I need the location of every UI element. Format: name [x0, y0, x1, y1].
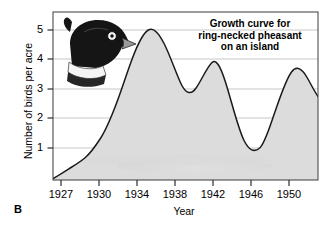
chart-title-line-2: ring-necked pheasant — [186, 30, 314, 42]
xtick-label-1927: 1927 — [41, 188, 81, 200]
xtick-label-1946: 1946 — [231, 188, 271, 200]
pheasant-pupil — [110, 34, 113, 37]
pheasant-head-illustration — [56, 14, 140, 90]
chart-title-line-3: on an island — [186, 41, 314, 53]
chart-title: Growth curve for ring-necked pheasant on… — [186, 18, 314, 53]
xtick-label-1934: 1934 — [117, 188, 157, 200]
pheasant-beak — [122, 38, 136, 49]
panel-label: B — [14, 203, 22, 215]
x-axis-ticks — [61, 180, 289, 186]
xtick-label-1950: 1950 — [269, 188, 309, 200]
pheasant-crest — [64, 18, 72, 32]
xtick-label-1942: 1942 — [193, 188, 233, 200]
y-axis-label: Number of birds per acre — [22, 26, 34, 176]
background-watermark-2 — [80, 155, 270, 165]
pheasant-head-shape — [70, 20, 130, 68]
xtick-label-1930: 1930 — [79, 188, 119, 200]
xtick-label-1938: 1938 — [155, 188, 195, 200]
x-axis-label: Year — [50, 205, 318, 217]
y-axis-ticks — [48, 30, 54, 148]
figure-panel-b: Growth curve for ring-necked pheasant on… — [0, 0, 335, 227]
chart-title-line-1: Growth curve for — [186, 18, 314, 30]
